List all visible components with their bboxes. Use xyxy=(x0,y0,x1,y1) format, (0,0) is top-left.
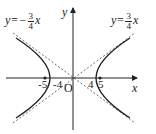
tick-label-4: 4 xyxy=(88,79,94,90)
tick-label-neg5: -5 xyxy=(38,79,47,90)
tick-label-neg4: -4 xyxy=(53,79,62,90)
asymptote-left-label: y=−34x xyxy=(5,12,40,31)
tick-label-5: 5 xyxy=(98,79,104,90)
origin-label: O xyxy=(64,82,73,94)
x-axis-label: x xyxy=(132,82,137,94)
y-axis-label: y xyxy=(62,6,67,18)
asymptote-right-label: y=34x xyxy=(111,12,138,31)
